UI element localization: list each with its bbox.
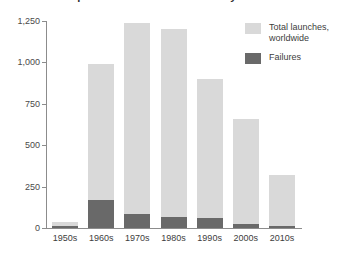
bar-total-launches[interactable] [161, 29, 187, 228]
bar-total-launches[interactable] [124, 23, 150, 228]
y-tick-label: 750 [6, 100, 40, 109]
y-tick-mark [42, 228, 46, 229]
x-tick-label: 1980s [155, 233, 191, 243]
legend-label: Total launches, worldwide [269, 22, 348, 43]
legend-label: Failures [269, 52, 348, 63]
bar-group[interactable] [52, 21, 78, 228]
chart-legend: Total launches, worldwideFailures [245, 22, 348, 73]
y-tick-label: 500 [6, 141, 40, 150]
bar-failures[interactable] [197, 218, 223, 228]
y-tick-mark [42, 62, 46, 63]
bar-failures[interactable] [124, 214, 150, 228]
chart-title: Space launches and failures by decade [0, 0, 348, 2]
y-tick-mark [42, 104, 46, 105]
x-tick-label: 1960s [83, 233, 119, 243]
x-axis-line [46, 228, 302, 229]
bar-group[interactable] [197, 21, 223, 228]
y-tick-label: 1,250 [6, 17, 40, 26]
legend-item[interactable]: Failures [245, 52, 348, 64]
legend-item[interactable]: Total launches, worldwide [245, 22, 348, 43]
legend-swatch [245, 23, 261, 34]
bar-group[interactable] [124, 21, 150, 228]
bar-total-launches[interactable] [233, 119, 259, 228]
x-tick-label: 1950s [47, 233, 83, 243]
x-tick-label: 2000s [228, 233, 264, 243]
y-tick-mark [42, 145, 46, 146]
legend-swatch [245, 53, 261, 64]
y-tick-mark [42, 187, 46, 188]
y-tick-mark [42, 21, 46, 22]
bar-failures[interactable] [269, 226, 295, 228]
y-tick-label: 1,000 [6, 58, 40, 67]
bar-group[interactable] [161, 21, 187, 228]
bar-failures[interactable] [52, 226, 78, 228]
bar-failures[interactable] [233, 224, 259, 228]
bar-group[interactable] [88, 21, 114, 228]
y-tick-label: 0 [6, 224, 40, 233]
bar-total-launches[interactable] [269, 175, 295, 228]
bar-total-launches[interactable] [197, 79, 223, 228]
chart-container: Space launches and failures by decade 02… [0, 0, 348, 254]
y-tick-label: 250 [6, 183, 40, 192]
bar-failures[interactable] [161, 217, 187, 228]
x-tick-label: 1990s [192, 233, 228, 243]
x-tick-label: 2010s [264, 233, 300, 243]
x-tick-label: 1970s [119, 233, 155, 243]
bar-failures[interactable] [88, 200, 114, 228]
